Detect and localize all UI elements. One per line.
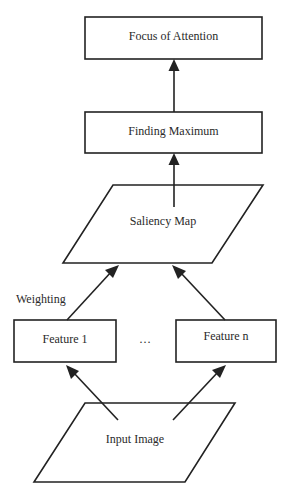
- attention-flow-diagram: Focus of Attention Finding Maximum Salie…: [0, 0, 291, 496]
- finding-maximum-label: Finding Maximum: [128, 124, 219, 138]
- arrowhead-icon: [169, 59, 180, 71]
- arrow-maximum-to-focus: [169, 59, 180, 112]
- ellipsis: …: [139, 332, 151, 346]
- input-image-label: Input Image: [106, 432, 164, 446]
- arrow-featuren-to-saliency: [172, 265, 225, 320]
- weighting-label: Weighting: [16, 292, 66, 306]
- arrow-feature1-to-saliency: [67, 265, 119, 320]
- saliency-map-label: Saliency Map: [130, 214, 196, 228]
- feature-1-label: Feature 1: [43, 332, 88, 346]
- arrowhead-icon: [169, 153, 180, 165]
- focus-of-attention-label: Focus of Attention: [129, 29, 218, 43]
- feature-n-label: Feature n: [204, 329, 249, 343]
